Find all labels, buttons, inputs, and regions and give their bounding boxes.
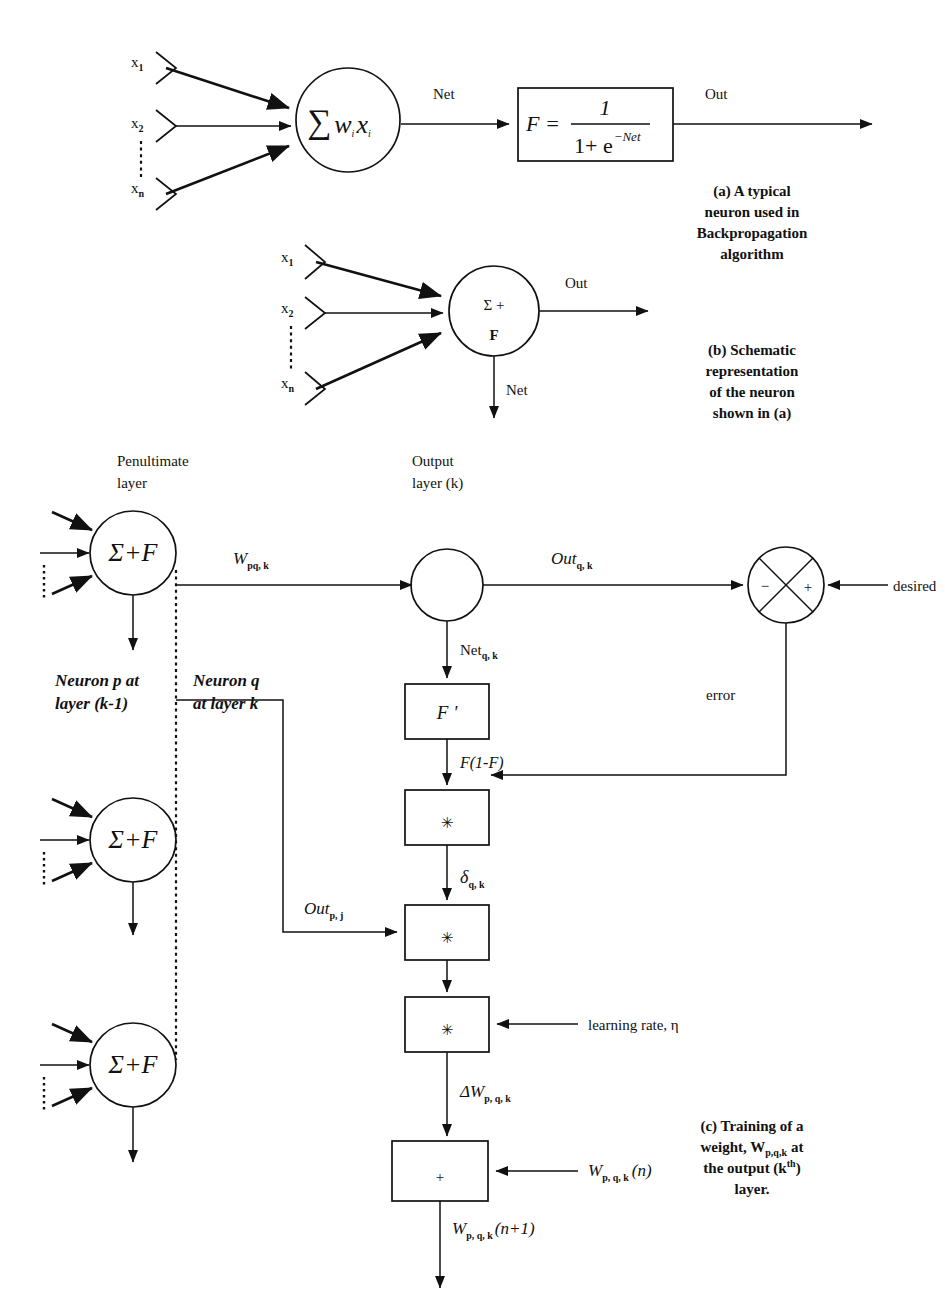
caption-a-line-1: (a) A typical (713, 183, 791, 200)
panel-b: x1 x2 xn Σ + F Out Net (281, 245, 648, 418)
panel-a-input-label-1: x1 (131, 54, 144, 73)
panel-b-fork-2 (305, 297, 325, 329)
panel-b-input-arrow-1 (316, 262, 441, 296)
panel-b-input-arrow-3 (316, 333, 441, 389)
neuron-q-label-line2: at layer k (193, 694, 259, 713)
output-neuron-circle (411, 549, 483, 621)
caption-b-line-2: representation (706, 363, 799, 379)
old-weight-label: Wp, q, k(n) (588, 1161, 652, 1183)
panel-b-input-label-2: x2 (281, 300, 294, 319)
panel-a-net-label: Net (433, 86, 455, 102)
delta-label: δq, k (460, 867, 485, 890)
out-q-label: Outq, k (551, 549, 593, 571)
adder-plus-glyph: + (436, 1169, 444, 1185)
penultimate-layer-label-line1: Penultimate (117, 453, 189, 469)
output-layer-label-line1: Output (412, 453, 455, 469)
error-feedback-path (491, 623, 786, 775)
caption-c-line-2: weight, Wp,q,kat (701, 1139, 804, 1158)
panel-a-input-arrow-3 (166, 146, 289, 194)
panel-a-input-arrow-1 (166, 68, 289, 108)
neuron-q-label-line1: Neuron q (192, 671, 260, 690)
junction-plus-sign: + (804, 579, 812, 595)
panel-b-input-label-3: xn (281, 375, 295, 394)
caption-b-line-3: of the neuron (709, 384, 795, 400)
penultimate-neuron-2-text: Σ+F (108, 825, 159, 854)
caption-b-line-4: shown in (a) (713, 405, 791, 422)
caption-c-line-4: layer. (735, 1181, 770, 1197)
learning-rate-label: learning rate, η (588, 1017, 679, 1033)
desired-label: desired (893, 578, 937, 594)
penultimate-neuron-3-text: Σ+F (108, 1050, 159, 1079)
caption-a-line-4: algorithm (720, 246, 784, 262)
caption-c-line-1: (c) Training of a (700, 1118, 804, 1135)
caption-b-line-1: (b) Schematic (708, 342, 796, 359)
penultimate-neuron-1: Σ+F (40, 511, 176, 650)
panel-b-net-label: Net (506, 382, 528, 398)
penultimate-neuron-3: Σ+F (40, 1023, 176, 1162)
multiply-glyph-2: ✳ (441, 930, 454, 946)
neuron-p-label-line1: Neuron p at (54, 671, 140, 690)
out-p-path (176, 700, 397, 932)
f-prime-label: F ' (436, 702, 458, 723)
panel-c: Penultimate layer Output layer (k) Σ+F Σ… (40, 453, 937, 1288)
panel-a-fork-2 (156, 110, 176, 142)
delta-w-label: ΔWp, q, k (459, 1082, 511, 1104)
panel-a-neuron-expression: ∑wixi (307, 103, 371, 141)
penultimate-neuron-1-text: Σ+F (108, 538, 159, 567)
f1f-label: F(1-F) (459, 754, 504, 772)
penultimate-layer-label-line2: layer (117, 475, 147, 491)
caption-a-line-3: Backpropagation (697, 225, 808, 241)
panel-a-input-label-3: xn (131, 180, 145, 199)
output-layer-label-line2: layer (k) (412, 475, 463, 492)
figure-canvas: x1 x2 xn ∑wixi Net F = 1 1 (0, 0, 945, 1312)
panel-b-input-label-1: x1 (281, 249, 294, 268)
multiply-glyph-3: ✳ (441, 1022, 454, 1038)
diagram-svg: x1 x2 xn ∑wixi Net F = 1 1 (0, 0, 945, 1312)
panel-a-formula-lhs: F = (525, 111, 560, 136)
caption-a: (a) A typical neuron used in Backpropaga… (697, 183, 808, 262)
net-q-label: Netq, k (460, 642, 498, 661)
panel-b-neuron-top-text: Σ + (484, 297, 505, 313)
multiply-glyph-1: ✳ (441, 815, 454, 831)
caption-c-line-3: the output (kth) (703, 1158, 800, 1177)
new-weight-label: Wp, q, k(n+1) (452, 1219, 535, 1241)
weight-label: Wpq, k (233, 549, 269, 571)
out-p-label: Outp, j (304, 899, 343, 921)
panel-a-out-label: Out (705, 86, 728, 102)
junction-minus-sign: − (761, 578, 769, 594)
error-label: error (706, 687, 735, 703)
caption-b: (b) Schematic representation of the neur… (706, 342, 799, 422)
panel-a-formula-denominator: 1+ e−Net (574, 129, 641, 158)
panel-b-fork-1 (305, 245, 325, 279)
error-summing-junction: − + (748, 547, 824, 623)
panel-a-input-label-2: x2 (131, 115, 144, 134)
panel-a-formula-numerator: 1 (600, 95, 611, 120)
caption-c: (c) Training of a weight, Wp,q,kat the o… (700, 1118, 804, 1197)
caption-a-line-2: neuron used in (705, 204, 800, 220)
panel-b-neuron-bottom-text: F (489, 327, 498, 343)
panel-b-out-label: Out (565, 275, 588, 291)
penultimate-neuron-2: Σ+F (40, 798, 176, 935)
panel-b-fork-3 (305, 372, 325, 405)
neuron-p-label-line2: layer (k-1) (55, 694, 128, 713)
